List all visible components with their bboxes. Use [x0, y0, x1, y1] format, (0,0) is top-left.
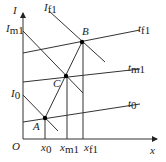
line-t-m1 [23, 69, 140, 82]
point-label-B: B [82, 25, 89, 37]
x-tick-xf1: xf1 [83, 141, 98, 155]
origin-label: O [12, 140, 20, 152]
label-t-0: t0 [128, 97, 137, 111]
label-I-f1: If1 [43, 1, 57, 15]
label-t-m1: tm1 [128, 61, 145, 75]
x-tick-xm1: xm1 [59, 141, 79, 155]
point-label-A: A [32, 120, 40, 132]
label-t-f1: tf1 [138, 22, 150, 36]
x-tick-x0: x0 [40, 141, 52, 155]
point-B [80, 40, 84, 44]
y-axis-label: I [12, 4, 18, 16]
line-A-C-B [45, 42, 82, 118]
y-tick-I0: I0 [10, 87, 21, 101]
point-C [64, 74, 68, 78]
x-axis-label: x [149, 144, 155, 156]
line-I-0 [23, 95, 58, 131]
diagram-canvas: I x O Im1 I0 x0 xm1 xf1 If1 tf1 tm1 t0 A… [0, 0, 166, 162]
y-tick-Im1: Im1 [5, 22, 24, 36]
point-label-C: C [53, 77, 61, 89]
line-I-f1 [49, 11, 105, 62]
point-A [43, 116, 47, 120]
